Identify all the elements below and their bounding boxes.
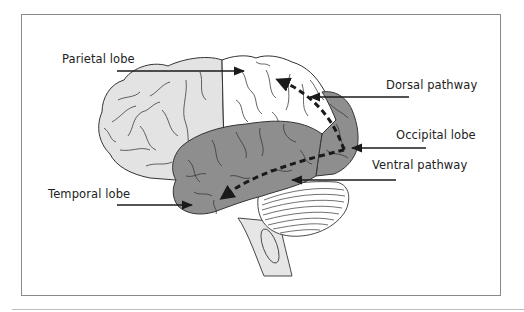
label-dorsal-pathway: Dorsal pathway (386, 78, 477, 92)
label-parietal-lobe: Parietal lobe (62, 52, 135, 66)
brain-diagram (0, 0, 524, 312)
label-occipital-lobe: Occipital lobe (396, 128, 476, 142)
label-ventral-pathway: Ventral pathway (372, 158, 467, 172)
bottom-rule (12, 309, 524, 310)
label-temporal-lobe: Temporal lobe (48, 187, 130, 201)
